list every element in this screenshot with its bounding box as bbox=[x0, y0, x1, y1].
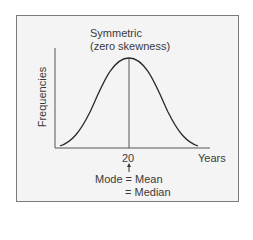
y-axis-label: Frequencies bbox=[36, 67, 49, 128]
x-axis-label: Years bbox=[198, 152, 226, 165]
annotation-mode-mean: Mode = Mean bbox=[95, 173, 163, 186]
annotation-median: = Median bbox=[125, 186, 171, 199]
x-tick-label: 20 bbox=[122, 152, 134, 165]
diagram-title-line2: (zero skewness) bbox=[90, 40, 170, 53]
diagram-title-line1: Symmetric bbox=[90, 27, 142, 40]
